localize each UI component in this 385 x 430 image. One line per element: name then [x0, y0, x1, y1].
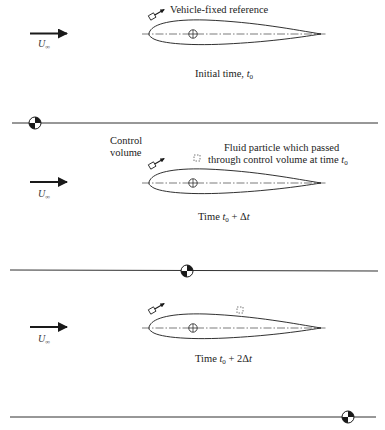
- caption-t0-plus-2dt: Time t0 + 2Δt: [195, 353, 252, 368]
- vehicle-fixed-reference-icon: [148, 156, 165, 169]
- ground-fixed-reference-icon: [29, 117, 41, 129]
- ground-line-1: [12, 117, 378, 129]
- caption-t0-plus-dt: Time t0 + Δt: [198, 211, 250, 226]
- airfoil: [142, 169, 326, 194]
- fluid-particle-icon: [194, 155, 200, 161]
- airfoil: [142, 20, 326, 45]
- vehicle-fixed-reference-icon: [148, 7, 165, 20]
- vehicle-fixed-reference-icon: [148, 301, 165, 314]
- ground-line-3: [10, 411, 376, 423]
- panel-t0-plus-2dt: [30, 301, 326, 338]
- fluid-particle-label-line1: Fluid particle which passed: [224, 142, 339, 153]
- diagram-canvas: [0, 0, 385, 430]
- ground-fixed-reference-icon: [181, 265, 193, 277]
- control-volume-label: Controlvolume: [110, 135, 142, 159]
- fluid-particle-icon: [237, 307, 243, 313]
- freestream-velocity-label: U∞: [38, 188, 50, 200]
- freestream-velocity-label: U∞: [38, 333, 50, 345]
- caption-initial-time: Initial time, t0: [195, 68, 253, 83]
- ground-line-2: [10, 265, 378, 277]
- ground-fixed-reference-icon: [342, 411, 354, 423]
- airfoil: [142, 314, 326, 339]
- freestream-velocity-label: U∞: [38, 38, 50, 50]
- fluid-particle-label-line2: through control volume at time t0: [208, 154, 348, 169]
- vehicle-fixed-reference-label: Vehicle-fixed reference: [170, 4, 268, 15]
